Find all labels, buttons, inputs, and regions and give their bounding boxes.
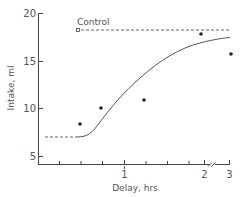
intake-delay-chart: 20 15 10 5 1 2 3 Delay, hrs Intake, ml C… [0, 0, 245, 197]
control-label: Control [77, 17, 110, 27]
y-axis-title: Intake, ml [6, 66, 16, 111]
data-point [142, 98, 146, 102]
data-point [199, 32, 203, 36]
data-point [78, 122, 82, 126]
data-point [229, 52, 233, 56]
data-points [78, 32, 233, 126]
y-ticks [39, 14, 44, 157]
y-tick-label-15: 15 [23, 56, 36, 67]
x-axis-title: Delay, hrs [112, 183, 158, 193]
x-tick-label-3: 3 [226, 169, 232, 180]
x-ticks [60, 160, 230, 165]
x-tick-label-1: 1 [121, 169, 127, 180]
data-point [99, 106, 103, 110]
y-tick-label-20: 20 [23, 8, 36, 19]
x-tick-label-2: 2 [201, 169, 207, 180]
control-marker-icon [77, 29, 80, 32]
fitted-curve [77, 38, 230, 138]
y-tick-label-5: 5 [30, 151, 36, 162]
y-tick-label-10: 10 [23, 103, 36, 114]
